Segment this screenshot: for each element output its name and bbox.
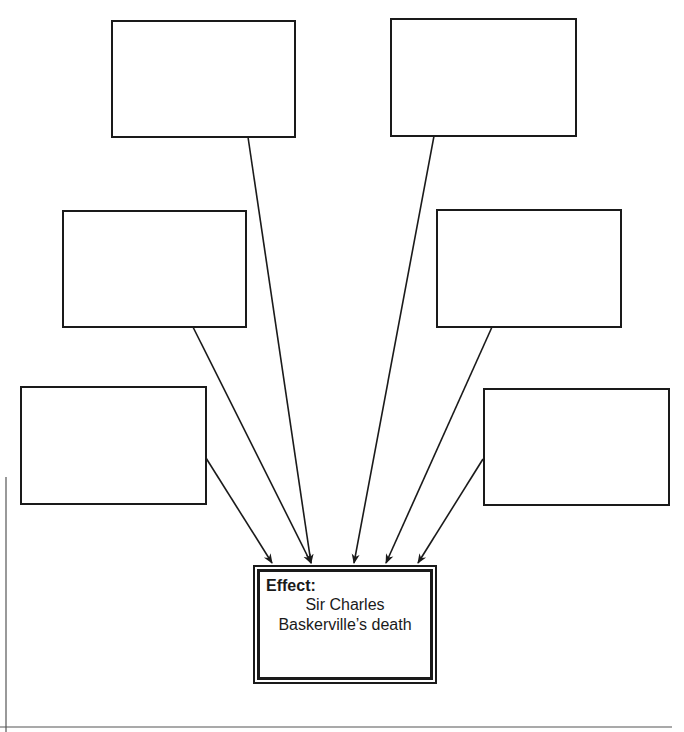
cause-box-middle-right	[436, 209, 622, 328]
effect-text-line-2: Baskerville’s death	[266, 615, 424, 635]
cause-box-top-right	[390, 18, 577, 137]
arrow-cause-2	[354, 136, 434, 563]
cause-box-bottom-right	[483, 388, 670, 506]
effect-text-line-1: Sir Charles	[266, 595, 424, 615]
cause-box-top-left	[111, 20, 296, 138]
arrow-cause-1	[248, 137, 311, 563]
arrow-cause-6	[418, 459, 483, 563]
effect-box: Effect: Sir Charles Baskerville’s death	[253, 565, 437, 684]
arrow-cause-3	[193, 327, 311, 563]
effect-inner-border: Effect: Sir Charles Baskerville’s death	[257, 569, 433, 680]
cause-box-bottom-left	[20, 386, 207, 505]
arrow-cause-4	[386, 327, 492, 563]
effect-label: Effect:	[266, 576, 424, 595]
cause-box-middle-left	[62, 210, 247, 328]
arrow-cause-5	[206, 458, 272, 563]
